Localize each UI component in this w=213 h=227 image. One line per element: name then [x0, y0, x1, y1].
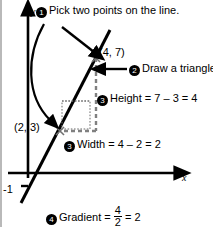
y-axis-label: y — [31, 7, 35, 17]
step-2-bullet: 2 — [129, 65, 140, 76]
gradient-fraction: 4 2 — [114, 205, 122, 227]
gradient-result: = 2 — [125, 211, 141, 223]
y-intercept-label: -1 — [3, 184, 13, 195]
x-axis-label: x — [182, 173, 186, 183]
step-3-width-callout: 3Width = 4 – 2 = 2 — [64, 139, 161, 152]
step-3-height-bullet: 3 — [97, 95, 108, 106]
step-3-height-callout: 3Height = 7 – 3 = 4 — [97, 93, 197, 106]
step-4-gradient-callout: 4Gradient = 4 2 = 2 — [46, 205, 141, 227]
gradient-diagram: y x -1 (4, 7) (2, 3) 1Pick two points on… — [0, 0, 213, 227]
arrow-to-lower-point — [31, 24, 50, 120]
step-2-text: Draw a triangle. — [142, 62, 213, 74]
step-3-height-text: Height = 7 – 3 = 4 — [110, 92, 197, 104]
graph-canvas — [0, 0, 213, 227]
step-1-callout: 1Pick two points on the line. — [36, 5, 179, 18]
gradient-denominator: 2 — [114, 217, 122, 227]
step-1-bullet: 1 — [36, 7, 47, 18]
lower-point-label: (2, 3) — [14, 122, 40, 133]
step-3-width-bullet: 3 — [64, 141, 75, 152]
step-2-callout: 2Draw a triangle. — [129, 63, 213, 76]
arrow-to-upper-point — [62, 27, 94, 52]
step-1-text: Pick two points on the line. — [49, 4, 179, 16]
step-3-width-text: Width = 4 – 2 = 2 — [77, 138, 161, 150]
step-4-bullet: 4 — [46, 214, 57, 225]
gradient-prefix: Gradient = — [59, 211, 111, 223]
upper-point-label: (4, 7) — [99, 47, 125, 58]
